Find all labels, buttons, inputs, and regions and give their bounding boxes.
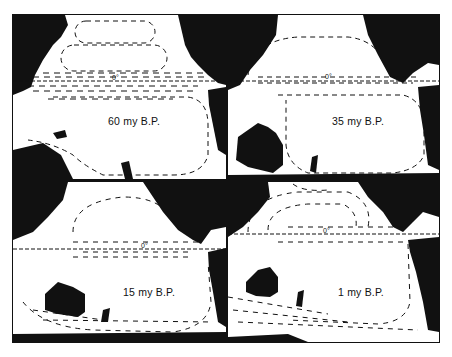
panel-label: 1 my B.P.	[338, 286, 384, 298]
panel-15-my: 0° 15 my B.P.	[13, 182, 226, 342]
equator-label: 0°	[112, 74, 119, 81]
equator-label: 0°	[141, 242, 148, 249]
panel-35-my: 0° 35 my B.P.	[228, 15, 439, 179]
map-60-my	[13, 15, 226, 179]
panel-label: 60 my B.P.	[108, 115, 160, 127]
equator-label: 0°	[323, 227, 330, 234]
equator-label: 0°	[325, 73, 332, 80]
map-15-my	[13, 182, 226, 342]
panel-1-my: 0° 1 my B.P.	[228, 182, 439, 342]
panel-label: 35 my B.P.	[332, 115, 384, 127]
map-35-my	[228, 15, 439, 179]
map-1-my	[228, 182, 439, 342]
panel-label: 15 my B.P.	[123, 286, 175, 298]
panel-60-my: 0° 60 my B.P.	[13, 15, 226, 179]
